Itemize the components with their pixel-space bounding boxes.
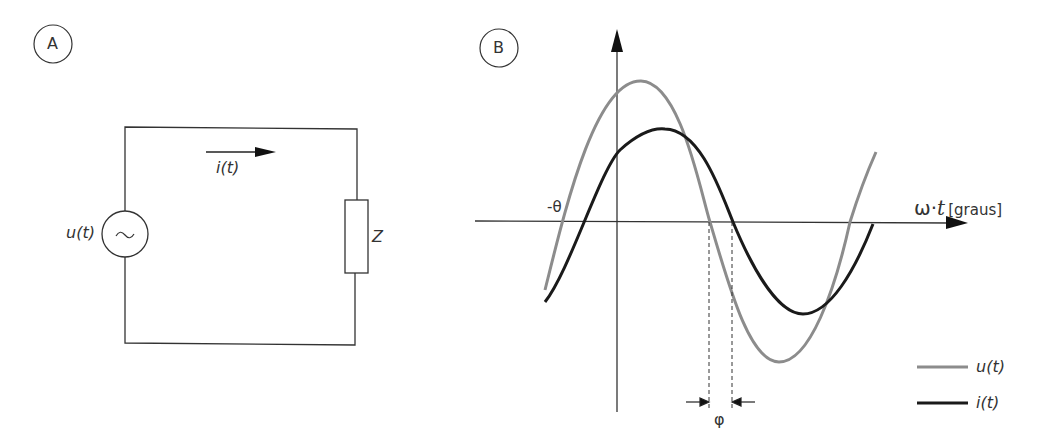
impedance-icon xyxy=(345,200,368,273)
legend-label-voltage: u(t) xyxy=(976,359,1005,375)
phi-label: φ xyxy=(714,412,725,428)
diagram-canvas xyxy=(0,0,1050,439)
theta-label: -θ xyxy=(547,200,562,215)
x-axis-label: ω·t[graus] xyxy=(914,198,1002,218)
current-arrow-icon xyxy=(206,147,276,157)
legend-label-current: i(t) xyxy=(976,395,999,411)
voltage-label: u(t) xyxy=(66,225,95,241)
badge-a-label: A xyxy=(47,36,58,52)
y-axis-arrow-icon xyxy=(611,29,623,52)
phase-arrows-icon xyxy=(686,398,755,406)
omega-symbol: ω· xyxy=(914,196,937,220)
phase-markers xyxy=(709,222,732,408)
axes xyxy=(475,29,968,412)
impedance-label: Z xyxy=(372,229,383,245)
ac-source-icon xyxy=(102,211,148,257)
badge-b-label: B xyxy=(493,40,504,56)
current-label: i(t) xyxy=(216,160,239,176)
t-symbol: t xyxy=(937,196,945,220)
unit: [graus] xyxy=(948,201,1002,219)
